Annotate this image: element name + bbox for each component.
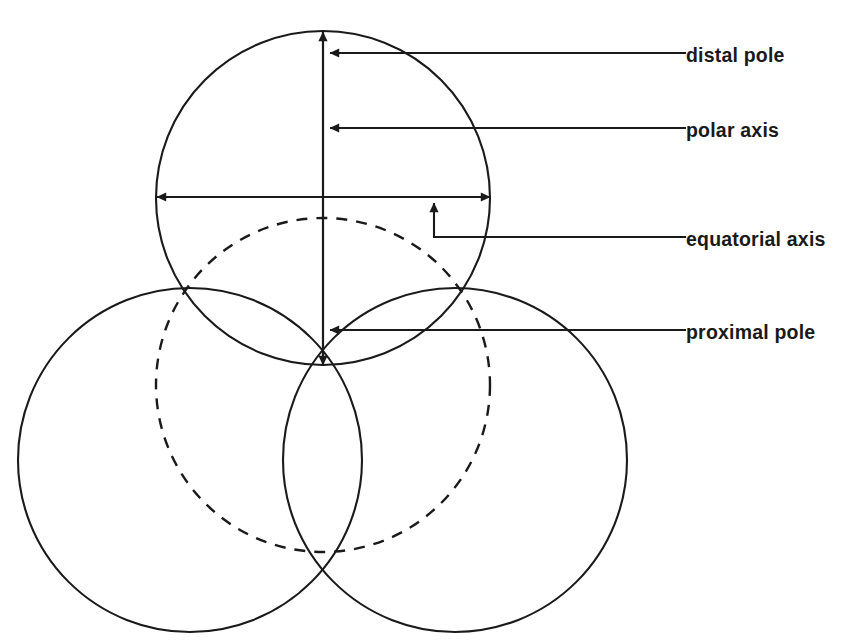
equatorial-axis-leader-line xyxy=(434,203,686,237)
label-group: distal pole polar axis equatorial axis p… xyxy=(686,44,826,343)
lower-right-lobe-circle xyxy=(283,288,627,632)
spore-diagram-canvas: distal pole polar axis equatorial axis p… xyxy=(0,0,860,641)
label-polar-axis: polar axis xyxy=(686,119,779,141)
leader-line-group xyxy=(330,53,686,330)
label-equatorial-axis: equatorial axis xyxy=(686,228,826,250)
label-proximal-pole: proximal pole xyxy=(686,321,815,343)
spore-diagram-svg: distal pole polar axis equatorial axis p… xyxy=(0,0,860,641)
axis-group xyxy=(157,32,490,365)
lower-left-lobe-circle xyxy=(18,288,362,632)
label-distal-pole: distal pole xyxy=(686,44,785,66)
